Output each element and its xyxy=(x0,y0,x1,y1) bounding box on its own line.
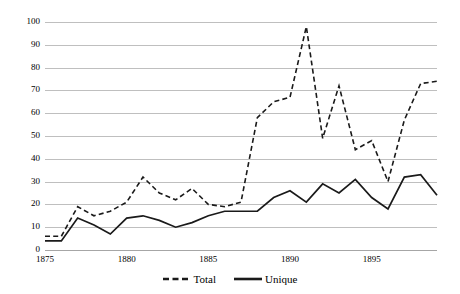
legend-label-unique: Unique xyxy=(265,274,297,285)
x-axis-tick-1890: 1890 xyxy=(270,254,310,264)
line-chart: 0102030405060708090100 18751880188518901… xyxy=(0,0,460,294)
legend-entry-unique: Unique xyxy=(234,274,297,285)
x-axis-tick-labels: 18751880188518901895 xyxy=(0,0,460,294)
chart-legend: Total Unique xyxy=(0,270,460,288)
x-axis-tick-1895: 1895 xyxy=(352,254,392,264)
x-axis-tick-1880: 1880 xyxy=(107,254,147,264)
legend-label-total: Total xyxy=(194,274,216,285)
legend-swatch-solid-icon xyxy=(234,274,262,284)
legend-entry-total: Total xyxy=(163,274,216,285)
x-axis-tick-1875: 1875 xyxy=(25,254,65,264)
x-axis-tick-1885: 1885 xyxy=(188,254,228,264)
legend-swatch-dashed-icon xyxy=(163,274,191,284)
